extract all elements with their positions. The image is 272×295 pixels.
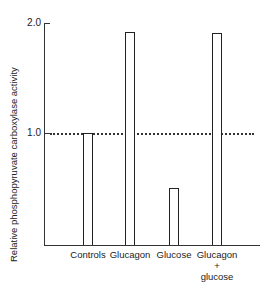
combo-line-3: glucose [187,271,247,282]
combo-line-2: + [187,260,247,271]
bar-glucagon-glucose [212,33,222,245]
combo-line-1: Glucagon [187,249,247,260]
y-axis [44,23,45,246]
y-axis-label: Relative phosphopyruvate carboxylase act… [8,67,19,262]
x-axis [44,245,260,246]
y-tick-label-2: 2.0 [27,18,41,28]
bar-glucose [169,188,179,245]
y-tick-2 [44,23,50,24]
y-tick-label-1: 1.0 [27,128,41,138]
bar-controls [83,133,93,245]
bar-glucagon [125,32,135,245]
category-label-glucagon-glucose: Glucagon + glucose [187,249,247,282]
reference-line-1 [50,133,254,135]
